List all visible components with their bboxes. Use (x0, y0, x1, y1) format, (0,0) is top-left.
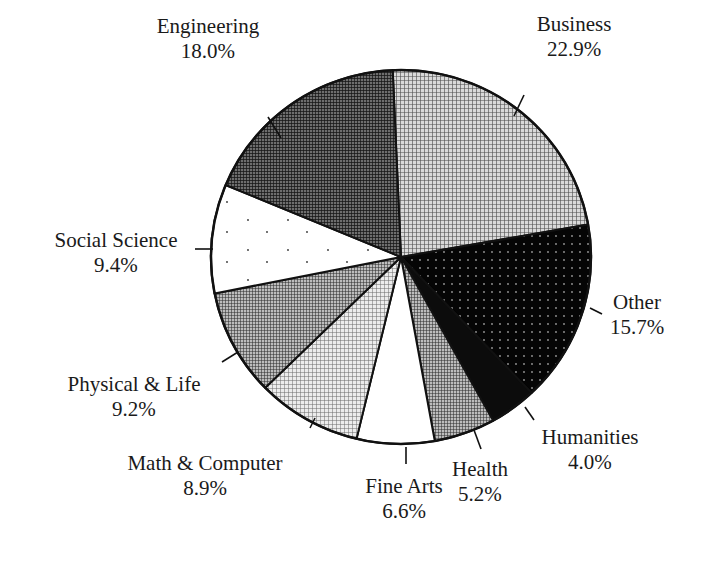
slice-label-name: Physical & Life (68, 372, 201, 397)
slice-label-engineering: Engineering18.0% (157, 14, 260, 64)
slice-label-percent: 4.0% (542, 450, 639, 475)
leader-line (222, 352, 238, 362)
leader-line (474, 430, 481, 449)
slice-label-percent: 9.4% (54, 253, 177, 278)
slice-label-health: Health5.2% (452, 457, 508, 507)
slice-label-math-computer: Math & Computer8.9% (127, 451, 282, 501)
slice-label-name: Humanities (542, 425, 639, 450)
slice-label-name: Social Science (54, 228, 177, 253)
slice-label-business: Business22.9% (537, 12, 612, 62)
pie-slices (211, 70, 591, 444)
slice-label-name: Health (452, 457, 508, 482)
leader-line (525, 407, 534, 420)
slice-label-percent: 18.0% (157, 39, 260, 64)
slice-label-percent: 9.2% (68, 397, 201, 422)
slice-label-physical-life: Physical & Life9.2% (68, 372, 201, 422)
slice-label-fine-arts: Fine Arts6.6% (365, 474, 443, 524)
slice-label-name: Fine Arts (365, 474, 443, 499)
slice-label-percent: 15.7% (610, 315, 664, 340)
slice-label-name: Business (537, 12, 612, 37)
slice-label-humanities: Humanities4.0% (542, 425, 639, 475)
slice-label-percent: 5.2% (452, 482, 508, 507)
pie-chart (0, 0, 706, 561)
leader-line (590, 308, 602, 314)
slice-label-social-science: Social Science9.4% (54, 228, 177, 278)
slice-label-percent: 22.9% (537, 37, 612, 62)
slice-label-other: Other15.7% (610, 290, 664, 340)
slice-label-percent: 8.9% (127, 476, 282, 501)
slice-label-name: Math & Computer (127, 451, 282, 476)
slice-label-percent: 6.6% (365, 499, 443, 524)
slice-label-name: Engineering (157, 14, 260, 39)
slice-label-name: Other (610, 290, 664, 315)
